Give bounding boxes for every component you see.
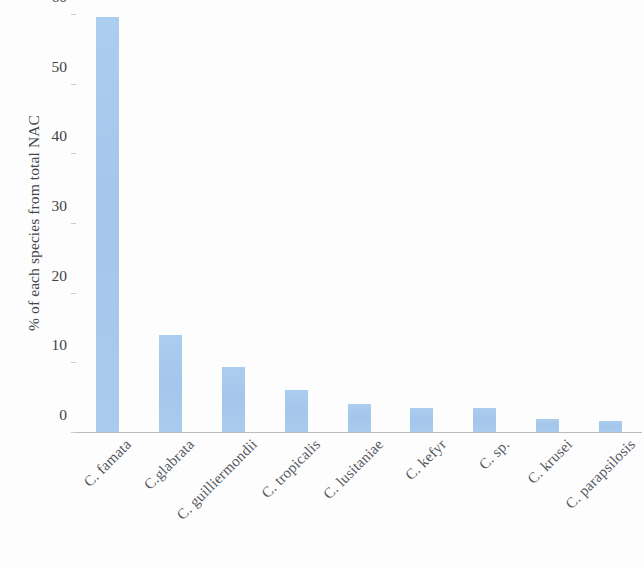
bar bbox=[285, 390, 308, 432]
y-tick-mark bbox=[71, 153, 76, 154]
bar bbox=[159, 335, 182, 432]
bar bbox=[473, 408, 496, 432]
y-tick-mark bbox=[71, 223, 76, 224]
y-tick-label: 40 bbox=[52, 127, 68, 145]
x-tick-label: C. tropicalis bbox=[258, 436, 324, 502]
y-tick-mark bbox=[71, 293, 76, 294]
bar bbox=[599, 421, 622, 432]
plot-area: 0102030405060 bbox=[76, 14, 642, 433]
y-tick-label: 0 bbox=[59, 406, 67, 424]
bar bbox=[96, 17, 119, 432]
y-tick-label: 20 bbox=[52, 267, 68, 285]
x-axis-line bbox=[76, 432, 642, 433]
x-axis-labels: C. famataC.glabrataC. guilliermondiiC. t… bbox=[76, 436, 642, 567]
bar bbox=[410, 408, 433, 432]
bar-chart: % of each species from total NAC 0102030… bbox=[0, 0, 644, 567]
bar bbox=[348, 404, 371, 432]
bar bbox=[536, 419, 559, 432]
y-tick-label: 50 bbox=[52, 58, 68, 76]
x-tick-label: C. kefyr bbox=[402, 436, 450, 484]
y-axis-title: % of each species from total NAC bbox=[25, 13, 43, 433]
x-tick-label: C. lusitaniae bbox=[320, 436, 387, 503]
y-tick-mark bbox=[71, 84, 76, 85]
x-tick-label: C. famata bbox=[81, 436, 136, 491]
y-tick-label: 30 bbox=[52, 197, 68, 215]
y-tick-label: 10 bbox=[52, 336, 68, 354]
y-tick-mark bbox=[71, 362, 76, 363]
x-tick-label: C.glabrata bbox=[141, 436, 198, 493]
x-tick-label: C. sp. bbox=[475, 436, 512, 473]
y-tick-label: 60 bbox=[52, 0, 68, 6]
y-tick-mark bbox=[71, 14, 76, 15]
bar bbox=[222, 367, 245, 432]
x-tick-label: C. krusei bbox=[524, 436, 576, 488]
